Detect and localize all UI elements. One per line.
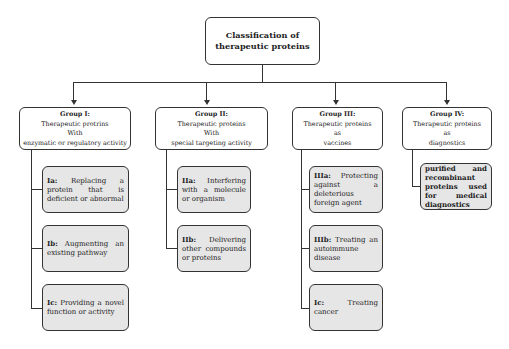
group2-arrow-icon [204,100,210,105]
horizontal-connector-line [73,82,447,83]
group3-node: Group III: Therapeutic proteins as vacci… [292,107,383,150]
leaf-iiib: IIIb: Treating an autoimmune disease [309,225,383,272]
root-stem-line [262,65,263,82]
group3-tick-iiia [301,189,309,190]
group1-label: Group I: [20,110,130,120]
group4-line3: diagnostics [403,139,491,149]
leaf-ib-text: Augmenting an existing pathway [47,240,124,257]
group4-line2: as [403,129,491,139]
leaf-ic: Ic: Providing a novel function or activi… [42,284,129,331]
group2-tick-iib [166,248,177,249]
group4-node: Group IV: Therapeutic proteins as diagno… [402,107,492,150]
leaf-iv-text: purified and recombinant proteins used f… [425,164,487,209]
leaf-iia-code: IIa: [182,176,196,185]
group2-line2: With [156,129,267,139]
leaf-ic-code: Ic: [47,298,57,307]
leaf-iiia-code: IIIa: [314,171,331,180]
group3-tick-ic [301,308,309,309]
leaf-iiic-code: Ic: [314,298,324,307]
leaf-iib: IIb: Delivering other compounds or prote… [177,225,251,272]
leaf-ia-code: Ia: [47,176,57,185]
leaf-iiib-code: IIIb: [314,235,331,244]
group3-tick-iiib [301,248,309,249]
group2-node: Group II: Therapeutic proteins With spec… [155,107,268,150]
leaf-iv: purified and recombinant proteins used f… [420,163,492,210]
group1-line3: enzymatic or regulatory activity [20,139,130,149]
group1-node: Group I: Therapeutic protrins With enzym… [19,107,131,150]
leaf-ib: Ib: Augmenting an existing pathway [42,225,129,272]
group2-line3: special targeting activity [156,139,267,149]
leaf-ia: Ia: Replacing a protein that is deficien… [42,166,129,213]
group2-label: Group II: [156,110,267,120]
leaf-iia: IIa: Interfering with a molecule or orga… [177,166,251,213]
root-title: Classification of therapeutic proteins [209,30,316,52]
group2-tick-iia [166,189,177,190]
leaf-iib-code: IIb: [182,235,196,244]
group4-tick [412,186,420,187]
group3-label: Group III: [293,110,382,120]
leaf-iiic-text: Treating cancer [314,299,378,316]
leaf-iiic: Ic: Treating cancer [309,284,383,331]
leaf-ic-text: Providing a novel function or activity [47,299,124,316]
group3-line1: Therapeutic proteins [293,120,382,130]
leaf-ia-text: Replacing a protein that is deficient or… [47,177,124,203]
group3-branch-line [301,150,302,309]
group4-line1: Therapeutic proteins [403,120,491,130]
group3-drop-line [335,82,336,101]
group1-line1: Therapeutic protrins [20,120,130,130]
group1-tick-ic [31,308,42,309]
group1-arrow-icon [71,100,77,105]
group4-label: Group IV: [403,110,491,120]
leaf-ib-code: Ib: [47,239,58,248]
group4-arrow-icon [444,100,450,105]
leaf-iiia: IIIa: Protecting against a deleterious f… [309,166,383,213]
group1-drop-line [73,82,74,101]
group1-branch-line [31,150,32,309]
group3-line3: vaccines [293,139,382,149]
group3-line2: as [293,129,382,139]
group2-drop-line [206,82,207,101]
group4-branch-line [412,150,413,187]
group1-line2: With [20,129,130,139]
root-node: Classification of therapeutic proteins [205,17,320,65]
group3-arrow-icon [333,100,339,105]
group2-branch-line [166,150,167,249]
group1-tick-ib [31,248,42,249]
group1-tick-ia [31,189,42,190]
group2-line1: Therapeutic proteins [156,120,267,130]
group4-drop-line [446,82,447,101]
